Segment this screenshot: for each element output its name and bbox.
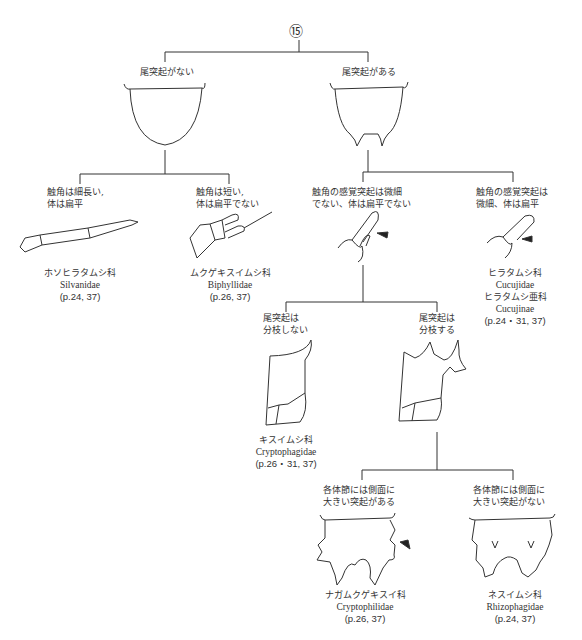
couplet-urogomphi-branched: 尾突起は 分枝する <box>419 312 455 336</box>
key-node-number: ⑮ <box>289 20 303 40</box>
couplet-line-1: 触角の感覚突起は <box>476 186 548 198</box>
subfamily-name-ja: ヒラタムシ亜科 <box>470 291 560 303</box>
couplet-line-2: 微細、体は扁平 <box>476 198 548 210</box>
couplet-line-2: 体は扁平 <box>47 198 104 210</box>
family-name-en: Silvanidae <box>30 279 130 291</box>
family-cryptophilidae: ナガムクゲキスイ科 Cryptophilidae (p.26, 37) <box>315 589 415 625</box>
couplet-line-1: 尾突起は <box>263 312 308 324</box>
family-silvanidae: ホソヒラタムシ科 Silvanidae (p.24, 37) <box>30 267 130 303</box>
couplet-tail: 尾突起がある <box>342 66 394 78</box>
family-name-en: Rhizophagidae <box>465 601 565 613</box>
couplet-line-2: 分枝しない <box>263 324 308 336</box>
couplet-sensory-not-minute: 触角の感覚突起は微細 でない、体は扁平でない <box>312 186 411 210</box>
couplet-antenna-short: 触角は短い, 体は扁平でない <box>196 186 259 210</box>
couplet-line-1: 触角は短い, <box>196 186 259 198</box>
couplet-sensory-minute: 触角の感覚突起は 微細、体は扁平 <box>476 186 548 210</box>
family-name-ja: ムクゲキスイムシ科 <box>180 267 280 279</box>
family-name-ja: キスイムシ科 <box>246 434 326 446</box>
family-name-ja: ホソヒラタムシ科 <box>30 267 130 279</box>
couplet-line-1: 触角は細長い, <box>47 186 104 198</box>
page-reference: (p.24, 37) <box>465 613 565 625</box>
family-name-ja: ヒラタムシ科 <box>470 267 560 279</box>
page-reference: (p.24・31, 37) <box>470 315 560 327</box>
family-name-ja: ネスイムシ科 <box>465 589 565 601</box>
couplet-large-lateral-processes: 各体節には側面に 大きい突起がある <box>323 484 395 508</box>
couplet-line-1: 各体節には側面に <box>323 484 395 496</box>
couplet-line-2: 体は扁平でない <box>196 198 259 210</box>
family-cryptophagidae: キスイムシ科 Cryptophagidae (p.26・31, 37) <box>246 434 326 470</box>
family-name-en: Cryptophagidae <box>246 446 326 458</box>
page-reference: (p.24, 37) <box>30 291 130 303</box>
page-reference: (p.26, 37) <box>315 613 415 625</box>
couplet-line-2: 分枝する <box>419 324 455 336</box>
couplet-no-lateral-processes: 各体節には側面に 大きい突起がない <box>473 484 545 508</box>
couplet-line-2: 大きい突起がある <box>323 496 395 508</box>
couplet-urogomphi-unbranched: 尾突起は 分枝しない <box>263 312 308 336</box>
family-biphyllidae: ムクゲキスイムシ科 Biphyllidae (p.26, 37) <box>180 267 280 303</box>
family-name-en: Cryptophilidae <box>315 601 415 613</box>
family-rhizophagidae: ネスイムシ科 Rhizophagidae (p.24, 37) <box>465 589 565 625</box>
family-name-en: Biphyllidae <box>180 279 280 291</box>
page-reference: (p.26・31, 37) <box>246 458 326 470</box>
couplet-line-1: 各体節には側面に <box>473 484 545 496</box>
family-name-ja: ナガムクゲキスイ科 <box>315 589 415 601</box>
couplet-text: 尾突起がある <box>342 66 394 78</box>
couplet-text: 尾突起がない <box>140 66 192 78</box>
page-reference: (p.26, 37) <box>180 291 280 303</box>
family-name-en: Cucujidae <box>470 279 560 291</box>
couplet-no-tail: 尾突起がない <box>140 66 192 78</box>
couplet-line-2: 大きい突起がない <box>473 496 545 508</box>
couplet-line-2: でない、体は扁平でない <box>312 198 411 210</box>
subfamily-name-en: Cucujinae <box>470 303 560 315</box>
couplet-antenna-long: 触角は細長い, 体は扁平 <box>47 186 104 210</box>
couplet-line-1: 触角の感覚突起は微細 <box>312 186 411 198</box>
couplet-line-1: 尾突起は <box>419 312 455 324</box>
family-cucujidae: ヒラタムシ科 Cucujidae ヒラタムシ亜科 Cucujinae (p.24… <box>470 267 560 327</box>
